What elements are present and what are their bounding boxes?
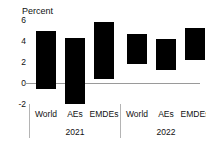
bar <box>36 31 56 89</box>
y-axis-title: Percent <box>22 6 53 16</box>
category-label: World <box>126 109 148 119</box>
bar <box>185 28 205 60</box>
category-axis-labels: WorldAEsEMDEsWorldAEsEMDEs <box>0 109 206 123</box>
category-label: AEs <box>158 109 174 119</box>
bar <box>94 22 114 79</box>
group-label: 2021 <box>66 127 85 137</box>
plot-area: -20246 <box>30 20 200 104</box>
category-label: World <box>35 109 57 119</box>
group-label: 2022 <box>157 127 176 137</box>
chart-container: Percent -20246 WorldAEsEMDEsWorldAEsEMDE… <box>0 0 206 154</box>
y-tick-label: -2 <box>18 100 26 109</box>
category-label: EMDEs <box>181 109 206 119</box>
y-tick-label: 6 <box>21 16 26 25</box>
category-label: AEs <box>67 109 83 119</box>
bar <box>156 39 176 70</box>
group-axis-labels: 20212022 <box>0 127 206 141</box>
y-tick-label: 2 <box>21 58 26 67</box>
bar <box>127 34 147 64</box>
y-tick-label: 4 <box>21 37 26 46</box>
category-label: EMDEs <box>90 109 119 119</box>
bar <box>65 38 85 104</box>
